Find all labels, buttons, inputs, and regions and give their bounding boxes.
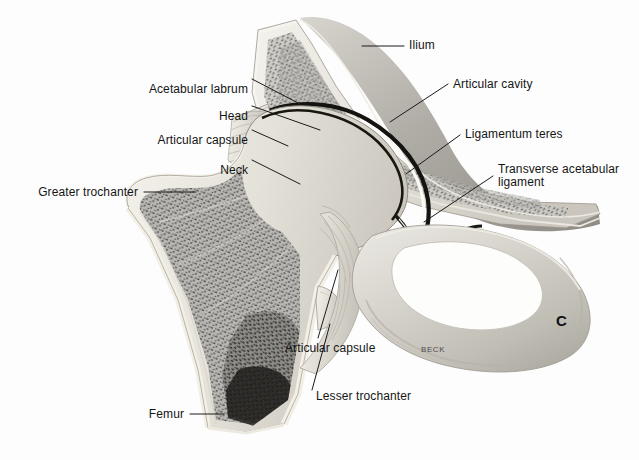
label-neck: Neck (0, 164, 248, 177)
label-femur: Femur (0, 408, 184, 421)
artist-signature: BECK (421, 345, 445, 354)
panel-label: C (556, 312, 567, 329)
label-ilium: Ilium (409, 39, 435, 52)
label-lesser-trochanter: Lesser trochanter (316, 390, 411, 403)
label-articular-capsule-upper: Articular capsule (0, 134, 248, 147)
label-articular-cavity: Articular cavity (453, 78, 533, 91)
label-greater-trochanter: Greater trochanter (0, 186, 138, 199)
label-articular-capsule-lower: Articular capsule (285, 342, 375, 355)
label-head: Head (0, 110, 248, 123)
label-ligamentum-teres: Ligamentum teres (465, 128, 563, 141)
pubis-ischium (352, 225, 590, 372)
label-acetabular-labrum: Acetabular labrum (0, 83, 248, 96)
label-transverse-acetabular-ligament: Transverse acetabular ligament (498, 163, 619, 189)
